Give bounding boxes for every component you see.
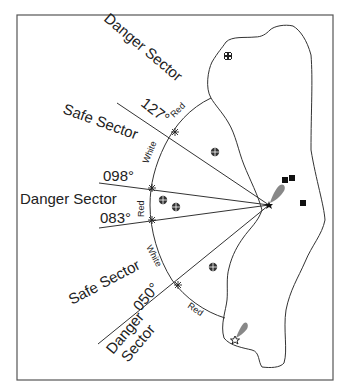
light-color-upper-label: White	[141, 140, 159, 165]
sector-arc	[150, 98, 225, 318]
bearing-098-label: 098°	[103, 167, 134, 184]
danger-sector-middle-label: Danger Sector	[20, 190, 117, 207]
light-color-lower-label: White	[144, 243, 164, 268]
light-color-bottom-label: Red	[186, 300, 205, 318]
bearing-127-label: 127°	[138, 94, 173, 127]
bearing-083-label: 083°	[100, 209, 131, 226]
light-color-middle-label: Red	[136, 200, 146, 217]
safe-sector-upper-label: Safe Sector	[61, 100, 140, 143]
sector-light-diagram: Danger Sector 127° Red Safe Sector White…	[0, 0, 345, 387]
danger-sector-top-label: Danger Sector	[101, 9, 186, 84]
bearing-line-098	[99, 183, 269, 205]
coastline	[208, 25, 325, 367]
